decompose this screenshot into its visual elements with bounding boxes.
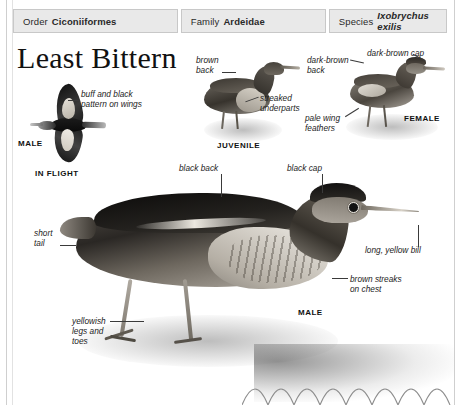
leader-line-male-black-back: [221, 174, 222, 197]
illustration-female: [340, 52, 452, 136]
annotation-male-bill: long, yellow bill: [365, 245, 421, 255]
taxonomy-cell-family: Family Ardeidae: [181, 9, 326, 33]
flight-tail: [82, 122, 106, 129]
taxonomy-label-order: Order: [23, 16, 48, 27]
leader-line-male-short-tail: [60, 245, 76, 246]
taxonomy-value-family: Ardeidae: [223, 16, 264, 27]
annotation-female-wing: pale wing feathers: [305, 113, 340, 133]
annotation-male-legs: yellowish legs and toes: [72, 316, 106, 346]
annotation-male-chest-streaks: brown streaks on chest: [350, 274, 402, 294]
annotation-female-back: dark-brown back: [307, 55, 349, 75]
leader-line-male-black-cap: [322, 174, 323, 193]
annotation-male-black-cap: black cap: [287, 163, 322, 173]
page-edge-rule-left: [6, 0, 7, 405]
taxonomy-header: Order Ciconiiformes Family Ardeidae Spec…: [13, 9, 447, 33]
female-leg-back: [383, 105, 387, 127]
caption-juvenile: JUVENILE: [217, 141, 260, 150]
leader-line-wing-pattern: [68, 100, 80, 101]
annotation-wing-pattern: buff and black pattern on wings: [81, 89, 142, 109]
male-toes-back: [174, 337, 202, 344]
taxonomy-label-species: Species: [339, 16, 374, 27]
page-edge-rule-inner: [12, 0, 13, 405]
male-leg-back: [183, 279, 193, 341]
taxonomy-value-order: Ciconiiformes: [52, 16, 117, 27]
buff-wing-patch-upper: [62, 98, 75, 119]
flight-bill: [30, 123, 43, 126]
leader-line-male-chest-streaks: [332, 278, 348, 279]
annotation-male-black-back: black back: [179, 163, 218, 173]
male-head: [312, 197, 368, 223]
caption-female: FEMALE: [404, 114, 440, 123]
male-eye: [348, 202, 359, 213]
juvenile-head: [264, 62, 284, 75]
male-bill: [361, 205, 419, 214]
female-pale-wing-feathers: [358, 84, 386, 97]
annotation-juvenile-underparts: streaked underparts: [260, 93, 300, 113]
decorative-scallop-border: [242, 365, 452, 405]
annotation-juvenile-back: brown back: [196, 55, 219, 75]
field-guide-page: Order Ciconiiformes Family Ardeidae Spec…: [0, 0, 460, 405]
male-tail: [60, 217, 96, 239]
page-title: Least Bittern: [17, 41, 177, 75]
leader-line-male-legs: [110, 321, 144, 322]
annotation-male-short-tail: short tail: [34, 228, 52, 248]
juvenile-leg-front: [221, 111, 225, 129]
taxonomy-label-family: Family: [191, 16, 220, 27]
leader-line-juvenile-back: [222, 72, 236, 73]
female-bill: [423, 66, 445, 70]
leader-line-male-bill: [418, 225, 419, 247]
taxonomy-value-species: Ixobrychus exilis: [377, 10, 446, 32]
taxonomy-cell-order: Order Ciconiiformes: [13, 9, 178, 33]
page-edge-rule-right: [454, 0, 455, 405]
taxonomy-cell-species: Species Ixobrychus exilis: [329, 9, 447, 33]
female-leg-front: [367, 105, 372, 127]
caption-male: MALE: [298, 308, 323, 317]
caption-in-flight-sex: MALE: [18, 139, 43, 148]
